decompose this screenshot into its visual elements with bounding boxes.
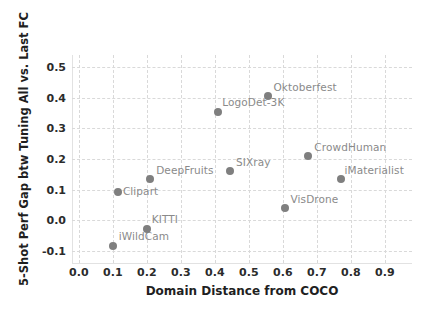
y-tick-label: 0.0 xyxy=(47,214,67,227)
x-tick-label: 0.6 xyxy=(273,266,293,279)
x-tick-label: 0.0 xyxy=(69,266,89,279)
data-point[interactable] xyxy=(109,242,117,250)
y-tick-label: 0.3 xyxy=(47,122,67,135)
data-point[interactable] xyxy=(143,225,151,233)
x-tick-label: 0.9 xyxy=(375,266,395,279)
y-tick-label: 0.1 xyxy=(47,183,67,196)
y-tick-label: 0.5 xyxy=(47,61,67,74)
x-tick-label: 0.8 xyxy=(341,266,361,279)
x-tick-label: 0.2 xyxy=(137,266,157,279)
data-point-label: VisDrone xyxy=(291,193,339,205)
x-tick-label: 0.3 xyxy=(171,266,191,279)
data-point[interactable] xyxy=(264,92,272,100)
data-point[interactable] xyxy=(281,204,289,212)
gridline-horizontal xyxy=(72,220,412,221)
plot-area: iWildCamKITTIClipartDeepFruitsSIXrayLogo… xyxy=(72,55,412,263)
gridline-horizontal xyxy=(72,67,412,68)
data-point-label: DeepFruits xyxy=(156,164,213,176)
data-point[interactable] xyxy=(146,175,154,183)
x-tick-label: 0.5 xyxy=(239,266,259,279)
gridline-horizontal xyxy=(72,251,412,252)
data-point-label: SIXray xyxy=(236,156,271,168)
x-tick-label: 0.1 xyxy=(103,266,123,279)
data-point[interactable] xyxy=(337,175,345,183)
data-point-label: CrowdHuman xyxy=(314,141,386,153)
x-axis-spine xyxy=(72,263,412,264)
data-point-label: KITTI xyxy=(152,213,178,225)
data-point[interactable] xyxy=(226,167,234,175)
scatter-chart-figure: iWildCamKITTIClipartDeepFruitsSIXrayLogo… xyxy=(0,0,428,321)
data-point-label: Oktoberfest xyxy=(274,81,337,93)
data-point-label: Clipart xyxy=(123,185,158,197)
gridline-horizontal xyxy=(72,128,412,129)
data-point[interactable] xyxy=(114,188,122,196)
x-axis-title: Domain Distance from COCO xyxy=(72,284,412,298)
data-point-label: LogoDet-3K xyxy=(222,96,284,108)
data-point[interactable] xyxy=(214,108,222,116)
x-tick-label: 0.7 xyxy=(307,266,327,279)
y-tick-label: 0.4 xyxy=(47,91,67,104)
y-tick-label: 0.2 xyxy=(47,153,67,166)
y-axis-title: 5-Shot Perf Gap btw Tuning All vs. Last … xyxy=(17,26,31,286)
data-point-label: iMaterialist xyxy=(345,164,404,176)
y-tick-label: -0.1 xyxy=(42,244,66,257)
x-tick-label: 0.4 xyxy=(205,266,225,279)
